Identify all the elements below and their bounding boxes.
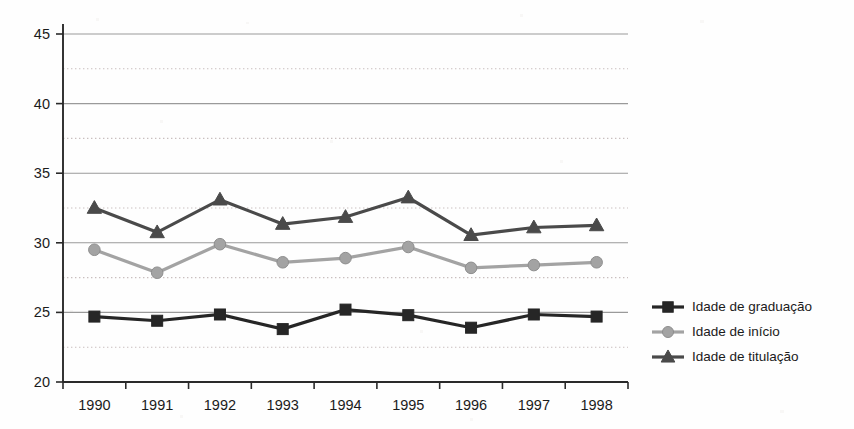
legend-item-label: Idade de graduação <box>692 299 812 314</box>
axes <box>56 24 628 389</box>
y-tick-label: 25 <box>34 304 50 320</box>
legend-item[interactable]: Idade de titulação <box>652 349 799 364</box>
y-tick-label: 35 <box>34 165 50 181</box>
legend-item-label: Idade de início <box>692 324 780 339</box>
x-tick-label: 1990 <box>78 397 110 413</box>
y-tick-label: 45 <box>34 26 50 42</box>
series-circle <box>89 238 603 278</box>
square-marker <box>89 311 100 322</box>
y-axis-tick-labels: 202530354045 <box>34 26 50 390</box>
x-tick-label: 1995 <box>392 397 424 413</box>
square-marker <box>466 322 477 333</box>
y-tick-label: 40 <box>34 96 50 112</box>
square-marker <box>277 324 288 335</box>
circle-marker <box>277 256 289 268</box>
x-axis-tick-labels: 199019911992199319941995199619971998 <box>78 397 612 413</box>
gridlines <box>63 34 628 347</box>
x-tick-label: 1992 <box>204 397 236 413</box>
square-marker <box>152 315 163 326</box>
series-triangle <box>87 190 604 240</box>
square-marker <box>403 310 414 321</box>
circle-marker <box>89 244 101 256</box>
circle-marker <box>465 262 477 274</box>
square-marker <box>340 304 351 315</box>
circle-marker <box>662 326 673 337</box>
series-square <box>89 304 602 334</box>
x-tick-label: 1997 <box>518 397 550 413</box>
legend-item-label: Idade de titulação <box>692 349 799 364</box>
x-tick-label: 1993 <box>267 397 299 413</box>
circle-marker <box>402 241 414 253</box>
chart-canvas: 202530354045 199019911992199319941995199… <box>0 0 854 429</box>
triangle-marker <box>87 201 101 214</box>
x-tick-label: 1996 <box>455 397 487 413</box>
y-tick-label: 20 <box>34 374 50 390</box>
triangle-marker <box>401 190 415 203</box>
circle-marker <box>214 238 226 250</box>
scan-artifacts <box>70 14 784 421</box>
circle-marker <box>151 267 163 279</box>
line-chart: 202530354045 199019911992199319941995199… <box>0 0 854 429</box>
x-tick-label: 1994 <box>329 397 361 413</box>
square-marker <box>663 302 673 312</box>
square-marker <box>528 309 539 320</box>
square-marker <box>591 311 602 322</box>
legend-item[interactable]: Idade de graduação <box>652 299 812 314</box>
legend-item[interactable]: Idade de início <box>652 324 780 339</box>
circle-marker <box>340 252 352 264</box>
x-tick-label: 1991 <box>141 397 173 413</box>
y-tick-label: 30 <box>34 235 50 251</box>
chart-legend: Idade de graduaçãoIdade de inícioIdade d… <box>652 299 812 364</box>
square-marker <box>214 309 225 320</box>
x-tick-label: 1998 <box>580 397 612 413</box>
circle-marker <box>528 259 540 271</box>
triangle-marker <box>213 192 227 205</box>
circle-marker <box>591 256 603 268</box>
